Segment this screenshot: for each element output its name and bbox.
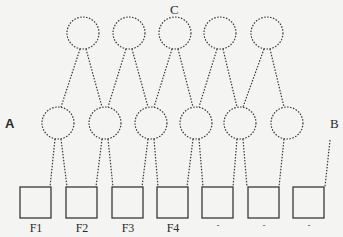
box-label-f2: F2 xyxy=(67,222,97,234)
middle-node-1 xyxy=(42,107,74,139)
box-6 xyxy=(248,187,279,218)
middle-node-2 xyxy=(89,107,121,139)
box-label-f1: F1 xyxy=(21,222,51,234)
box-f3 xyxy=(112,187,143,218)
box-label-6: - xyxy=(249,222,279,230)
middle-node-5 xyxy=(224,107,256,139)
label-b: B xyxy=(330,117,339,130)
box-f4 xyxy=(157,187,188,218)
box-label-f3: F3 xyxy=(113,222,143,234)
top-node-2 xyxy=(113,17,145,49)
label-a: A xyxy=(5,117,14,130)
middle-node-3 xyxy=(135,107,167,139)
label-c: C xyxy=(170,3,179,16)
diagram-canvas xyxy=(0,0,343,237)
box-label-7: - xyxy=(294,222,324,230)
box-f2 xyxy=(66,187,97,218)
box-5 xyxy=(202,187,233,218)
middle-node-4 xyxy=(180,107,212,139)
box-f1 xyxy=(20,187,51,218)
top-node-3 xyxy=(159,17,191,49)
middle-node-6 xyxy=(271,107,303,139)
box-label-5: - xyxy=(203,222,233,230)
box-7 xyxy=(293,187,324,218)
top-node-5 xyxy=(251,17,283,49)
top-node-4 xyxy=(204,17,236,49)
top-node-1 xyxy=(67,17,99,49)
box-label-f4: F4 xyxy=(158,222,188,234)
